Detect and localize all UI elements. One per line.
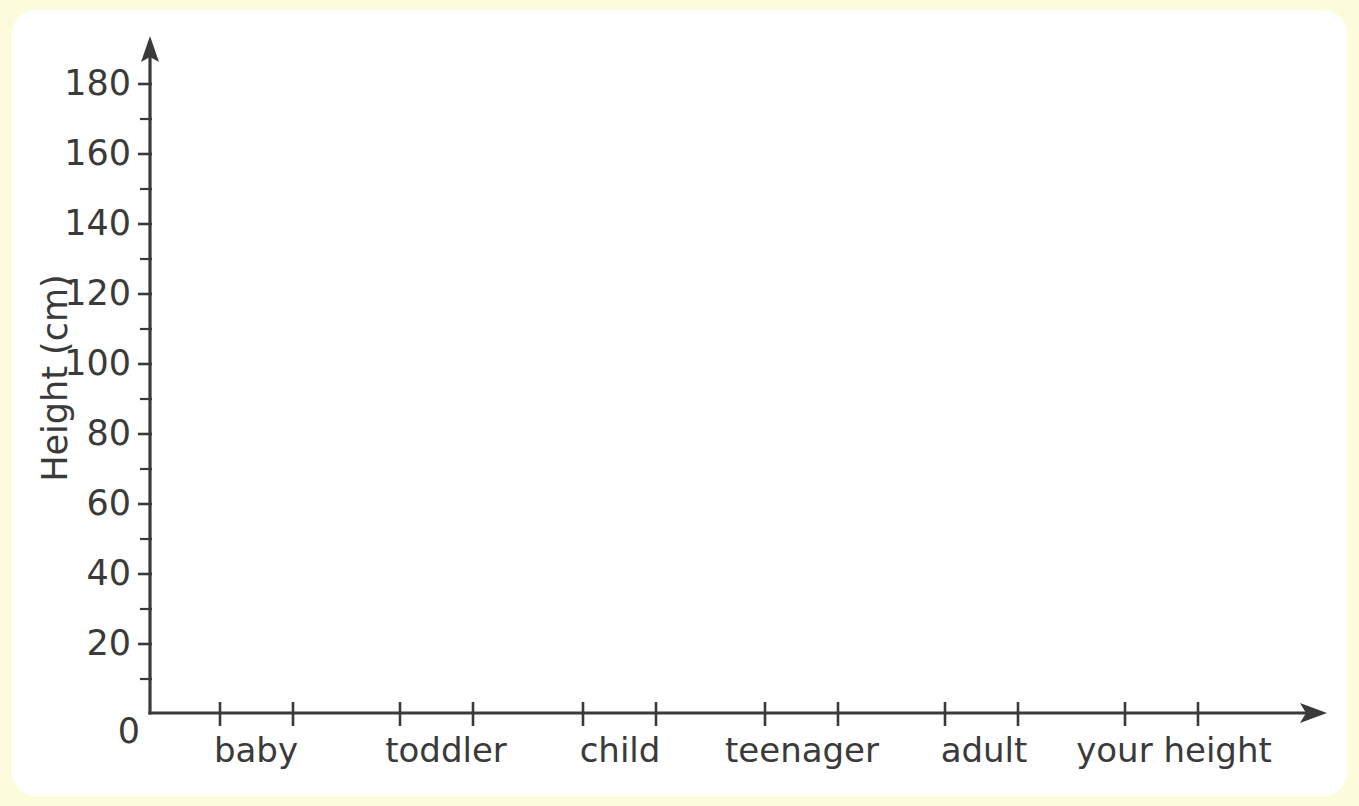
x-label-your-height: your height: [1076, 730, 1272, 770]
y-tick-label-180: 180: [64, 63, 131, 103]
y-tick-label-140: 140: [64, 203, 131, 243]
y-tick-label-60: 60: [86, 483, 131, 523]
x-label-child: child: [580, 730, 661, 770]
x-label-toddler: toddler: [385, 730, 507, 770]
y-tick-label-40: 40: [86, 553, 131, 593]
y-tick-label-20: 20: [86, 623, 131, 663]
origin-label: 0: [118, 711, 140, 751]
plot-area-canvas[interactable]: [152, 55, 1302, 711]
y-tick-label-160: 160: [64, 133, 131, 173]
y-axis-title: Height (cm): [35, 274, 75, 481]
y-tick-labels: 180 160 140 120 100 80 60 40 20 0: [64, 63, 140, 751]
x-tick-labels: baby toddler child teenager adult your h…: [214, 730, 1272, 770]
x-label-baby: baby: [214, 730, 298, 770]
height-chart: 180 160 140 120 100 80 60 40 20 0 Height…: [0, 0, 1359, 806]
x-label-teenager: teenager: [725, 730, 879, 770]
y-tick-label-80: 80: [86, 413, 131, 453]
plot-area[interactable]: [152, 55, 1302, 711]
x-label-adult: adult: [941, 730, 1028, 770]
